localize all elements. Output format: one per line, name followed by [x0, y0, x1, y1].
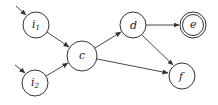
node-e-label: e — [190, 18, 197, 31]
node-e-accepting[interactable]: e — [180, 12, 206, 38]
initial-arrow-i1 — [16, 6, 26, 15]
edge-c-d — [95, 32, 121, 48]
node-d-label: d — [130, 19, 137, 32]
edge-d-f — [142, 35, 173, 65]
node-d[interactable]: d — [120, 12, 146, 38]
edge-c-f — [97, 59, 168, 73]
edge-i1-c — [47, 32, 69, 47]
edge-i2-c — [46, 63, 68, 76]
graph-canvas: i1 i2 c d e f — [0, 0, 218, 105]
node-i2[interactable]: i2 — [22, 70, 48, 96]
node-f[interactable]: f — [169, 63, 195, 89]
initial-arrow-i2 — [15, 65, 25, 73]
node-i1[interactable]: i1 — [23, 12, 49, 38]
node-c-label: c — [79, 49, 85, 62]
node-c[interactable]: c — [67, 41, 97, 71]
